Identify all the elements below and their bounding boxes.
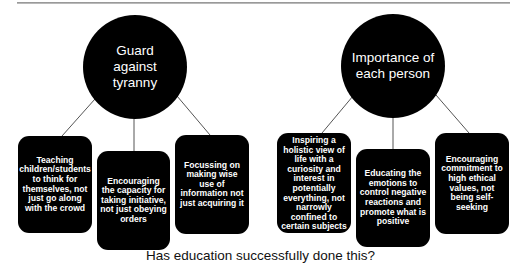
child-node-text: Inspiring a holistic view of life with a… [280,136,348,232]
child-node-text: Focussing on making wise use of informat… [178,161,246,209]
topic-title-line: Importance of [352,50,435,66]
connector-line [62,99,95,136]
topic-title-line: each person [352,66,435,82]
connector-line [322,96,353,133]
child-node-holistic-view: Inspiring a holistic view of life with a… [277,133,351,233]
topic-node-guard-against-tyranny: Guard against tyranny [83,15,187,119]
child-node-text: Teaching children/students to think for … [19,156,91,214]
child-node-ethical-values: Encouraging commitment to high ethical v… [435,133,509,234]
topic-node-importance-of-each-person: Importance of each person [341,14,445,118]
child-node-text: Encouraging commitment to high ethical v… [438,155,506,213]
child-node-wise-use-of-information: Focussing on making wise use of informat… [175,135,249,234]
child-node-educating-emotions: Educating the emotions to control negati… [356,149,430,247]
topic-title-line: tyranny [93,75,177,91]
child-node-text: Educating the emotions to control negati… [359,169,427,227]
connector-line [177,96,210,135]
topic-title-line: Guard against [93,43,177,75]
diagram-caption: Has education successfully done this? [0,248,521,263]
child-node-think-for-themselves: Teaching children/students to think for … [18,136,92,233]
child-node-text: Encouraging the capacity for taking init… [100,177,167,225]
connector-line [436,95,469,133]
child-node-taking-initiative: Encouraging the capacity for taking init… [97,151,170,250]
